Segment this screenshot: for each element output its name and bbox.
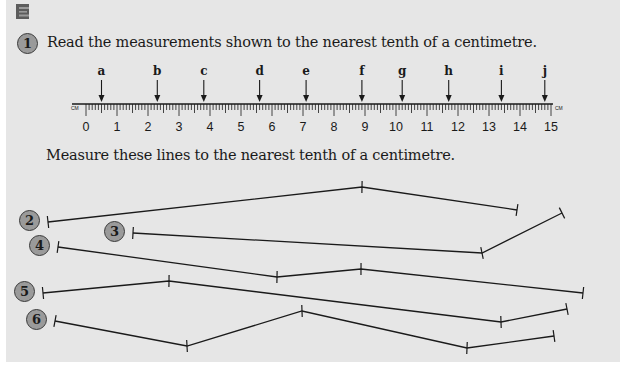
question-number-6: 6 [26, 309, 47, 330]
line-3 [133, 208, 565, 259]
ruler-tick-label: 6 [269, 120, 276, 134]
ruler-arrow-h: h [444, 64, 453, 102]
ruler-tick-label: 1 [114, 120, 121, 134]
ruler-tick-label: 0 [83, 120, 90, 134]
svg-text:f: f [359, 64, 365, 78]
line-4 [57, 241, 583, 299]
svg-text:c: c [200, 64, 207, 78]
ruler-arrow-c: c [200, 64, 207, 102]
ruler-tick-label: 7 [300, 120, 307, 134]
line-6 [54, 305, 555, 354]
question-number-4: 4 [29, 235, 50, 256]
svg-text:d: d [255, 64, 264, 78]
ruler-tick-label: 12 [451, 120, 465, 134]
cm-label-right: CM [555, 105, 563, 111]
ruler-arrow-a: a [98, 64, 106, 102]
cm-label-left: CM [71, 105, 79, 111]
ruler-tick-label: 2 [145, 120, 152, 134]
ruler-tick-label: 14 [513, 120, 527, 134]
ruler-arrow-j: j [542, 64, 548, 102]
question-number-3: 3 [104, 221, 125, 242]
ruler: 0123456789101112131415CMCM [71, 104, 563, 134]
ruler-tick-label: 3 [176, 120, 183, 134]
ruler-tick-label: 5 [238, 120, 245, 134]
measurement-drawing: 0123456789101112131415CMCMabcdefghij [0, 0, 626, 371]
ruler-arrow-i: i [498, 64, 504, 102]
svg-text:h: h [444, 64, 453, 78]
svg-text:g: g [398, 64, 407, 78]
ruler-arrow-e: e [302, 64, 310, 102]
svg-text:a: a [98, 64, 106, 78]
ruler-arrow-d: d [255, 64, 264, 102]
svg-text:b: b [153, 64, 161, 78]
ruler-arrow-b: b [153, 64, 161, 102]
ruler-tick-label: 15 [544, 120, 558, 134]
question-number-2: 2 [19, 210, 40, 231]
ruler-tick-label: 8 [331, 120, 338, 134]
ruler-arrow-f: f [359, 64, 365, 102]
svg-text:e: e [302, 64, 310, 78]
svg-text:i: i [499, 64, 504, 78]
ruler-tick-label: 4 [207, 120, 214, 134]
question-number-5: 5 [14, 281, 35, 302]
ruler-tick-label: 10 [389, 120, 403, 134]
ruler-arrow-g: g [398, 64, 407, 102]
svg-text:j: j [542, 64, 547, 78]
ruler-tick-label: 9 [362, 120, 369, 134]
ruler-tick-label: 13 [482, 120, 496, 134]
ruler-tick-label: 11 [421, 120, 434, 134]
